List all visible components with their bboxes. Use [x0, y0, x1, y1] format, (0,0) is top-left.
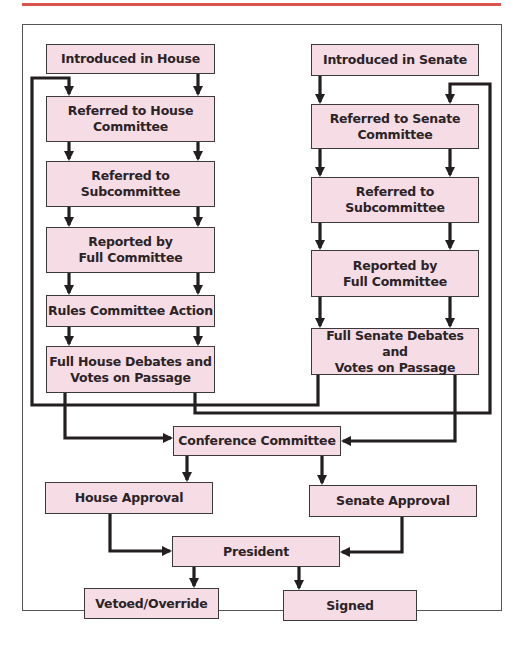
signed-box: Signed — [283, 590, 417, 621]
introduced-in-senate-box: Introduced in Senate — [311, 44, 479, 76]
senate-debate-box: Full Senate Debates and Votes on Passage — [311, 328, 479, 375]
vetoed-override-box: Vetoed/Override — [84, 588, 219, 619]
referred-house-committee-line1: Referred to House — [68, 103, 194, 119]
president-box: President — [172, 536, 340, 567]
referred-senate-committee-box: Referred to Senate Committee — [311, 104, 479, 149]
conference-committee-label: Conference Committee — [178, 433, 335, 449]
house-subcommittee-line1: Referred to — [91, 168, 170, 184]
senate-reported-line2: Full Committee — [343, 274, 447, 290]
signed-label: Signed — [326, 598, 373, 614]
senate-approval-box: Senate Approval — [309, 485, 477, 517]
vetoed-override-label: Vetoed/Override — [95, 596, 207, 612]
senate-debate-line2: Votes on Passage — [335, 360, 455, 376]
house-reported-line2: Full Committee — [79, 250, 183, 266]
house-debate-line2: Votes on Passage — [70, 370, 190, 386]
senate-reported-line1: Reported by — [353, 258, 437, 274]
introduced-in-house-box: Introduced in House — [46, 44, 215, 74]
house-reported-line1: Reported by — [88, 234, 172, 250]
house-debate-box: Full House Debates and Votes on Passage — [46, 346, 215, 393]
referred-senate-committee-line1: Referred to Senate — [330, 111, 461, 127]
conference-committee-box: Conference Committee — [173, 426, 341, 456]
referred-senate-committee-line2: Committee — [357, 127, 432, 143]
referred-house-committee-box: Referred to House Committee — [46, 96, 215, 142]
introduced-in-senate-label: Introduced in Senate — [323, 52, 467, 68]
senate-subcommittee-line1: Referred to — [356, 184, 435, 200]
rules-committee-box: Rules Committee Action — [46, 295, 215, 327]
rules-committee-label: Rules Committee Action — [48, 303, 213, 319]
house-approval-label: House Approval — [75, 490, 184, 506]
senate-debate-line1: Full Senate Debates and — [312, 328, 478, 360]
president-label: President — [223, 544, 289, 560]
house-approval-box: House Approval — [45, 482, 213, 514]
introduced-in-house-label: Introduced in House — [61, 51, 200, 67]
house-subcommittee-line2: Subcommittee — [81, 184, 181, 200]
senate-subcommittee-box: Referred to Subcommittee — [311, 177, 479, 223]
house-subcommittee-box: Referred to Subcommittee — [46, 161, 215, 207]
senate-reported-box: Reported by Full Committee — [311, 250, 479, 297]
senate-approval-label: Senate Approval — [336, 493, 450, 509]
senate-subcommittee-line2: Subcommittee — [345, 200, 445, 216]
referred-house-committee-line2: Committee — [93, 119, 168, 135]
house-debate-line1: Full House Debates and — [49, 354, 211, 370]
house-reported-box: Reported by Full Committee — [46, 227, 215, 273]
